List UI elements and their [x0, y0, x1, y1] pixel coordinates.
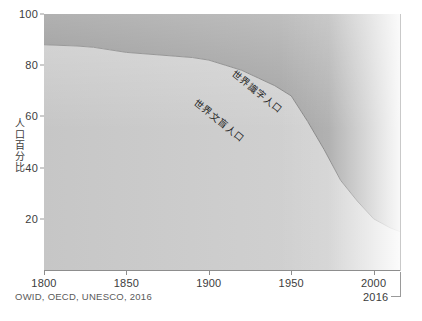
chart-figure: 18001850190019502000 20406080100 人口百分比 世…: [0, 0, 422, 321]
x-tick-mark: [291, 270, 292, 275]
end-year-label: 2016: [363, 291, 388, 303]
x-tick-label: 1800: [31, 277, 56, 289]
x-tick-label: 1850: [114, 277, 139, 289]
y-tick-mark: [40, 167, 44, 168]
x-tick-label: 2000: [361, 277, 386, 289]
x-tick-mark: [44, 270, 45, 275]
x-tick-mark: [374, 270, 375, 275]
plot-right-border: [400, 14, 401, 271]
x-tick-label: 1900: [196, 277, 221, 289]
x-tick-label: 1950: [279, 277, 304, 289]
y-tick-label: 40: [25, 162, 38, 174]
x-tick-mark: [209, 270, 210, 275]
y-axis-title: 人口百分比: [14, 118, 26, 173]
y-tick-mark: [40, 218, 44, 219]
y-tick-label: 60: [25, 110, 38, 122]
y-tick-mark: [40, 14, 44, 15]
end-year-connector-horizontal: [391, 296, 401, 297]
x-tick-mark: [126, 270, 127, 275]
stacked-area-svg: [44, 14, 400, 270]
y-tick-label: 80: [25, 59, 38, 71]
y-tick-mark: [40, 65, 44, 66]
y-tick-label: 100: [19, 8, 38, 20]
plot-area: [44, 14, 400, 270]
y-tick-mark: [40, 116, 44, 117]
x-axis-line: [44, 270, 400, 271]
y-tick-label: 20: [25, 213, 38, 225]
source-credit: OWID, OECD, UNESCO, 2016: [15, 291, 152, 302]
end-year-connector-vertical: [400, 272, 401, 296]
